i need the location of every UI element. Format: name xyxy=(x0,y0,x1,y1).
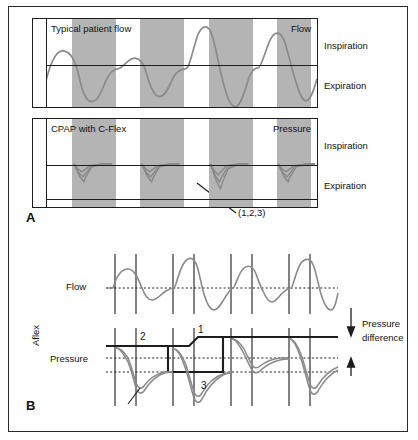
callout-label: (1,2,3) xyxy=(238,207,265,218)
pressure-box-title: CPAP with C-Flex xyxy=(51,123,126,134)
flow-box-right-title: Flow xyxy=(291,23,311,34)
pressure-expiration-label: Expiration xyxy=(324,180,366,191)
panel-b-plot xyxy=(18,236,400,422)
panel-b-letter: B xyxy=(26,398,35,413)
annotation-2: 2 xyxy=(140,331,146,342)
annotation-1: 1 xyxy=(198,324,204,335)
pressure-difference-label-line1: Pressure xyxy=(362,318,400,329)
pressure-inspiration-label: Inspiration xyxy=(324,140,368,151)
panel-b-y-axis-label: Aflex xyxy=(30,325,41,346)
panel-b-flow-label: Flow xyxy=(66,281,86,292)
flow-inspiration-label: Inspiration xyxy=(324,40,368,51)
pressure-baseline xyxy=(46,165,317,166)
panel-a: Typical patient flow Flow xyxy=(32,18,318,208)
figure-root: Typical patient flow Flow xyxy=(0,0,418,440)
pressure-box-right-title: Pressure xyxy=(273,123,311,134)
flow-box-title: Typical patient flow xyxy=(51,23,131,34)
panel-b: Flow Pressure Aflex 1 2 3 Pressure diffe… xyxy=(18,236,400,422)
pressure-difference-label-line2: difference xyxy=(362,332,404,343)
flow-baseline xyxy=(46,65,317,66)
flow-expiration-label: Expiration xyxy=(324,80,366,91)
panel-a-flow-box: Typical patient flow Flow xyxy=(32,18,318,108)
flow-left-gutter xyxy=(33,19,47,107)
panel-a-pressure-box: CPAP with C-Flex Pressure xyxy=(32,118,318,208)
pressure-left-gutter xyxy=(33,119,47,207)
panel-b-pressure-label: Pressure xyxy=(50,353,88,364)
panel-a-letter: A xyxy=(26,210,35,225)
pressure-bottom-strip xyxy=(46,199,317,207)
annotation-3: 3 xyxy=(201,380,207,391)
